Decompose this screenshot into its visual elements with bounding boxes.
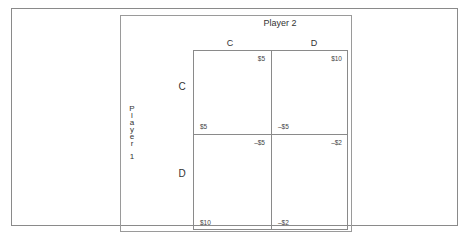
player1-strategy-c-label: C bbox=[176, 81, 188, 92]
cell-cd: $10 –$5 bbox=[272, 51, 348, 134]
player2-strategy-d-label: D bbox=[304, 38, 324, 48]
cell-dd: –$2 –$2 bbox=[272, 135, 348, 230]
player1-label-char: r bbox=[127, 140, 137, 147]
player1-strategy-d-label: D bbox=[176, 168, 188, 179]
player1-label-char: 1 bbox=[127, 153, 137, 160]
player2-label: Player 2 bbox=[250, 18, 310, 28]
cell-cc: $5 $5 bbox=[194, 51, 271, 134]
cell-dd-player2-payoff: –$2 bbox=[331, 139, 342, 146]
player2-strategy-c-label: C bbox=[220, 38, 240, 48]
cell-dc-player1-payoff: $10 bbox=[200, 219, 211, 226]
cell-dc-player2-payoff: –$5 bbox=[254, 139, 265, 146]
cell-cc-player2-payoff: $5 bbox=[258, 55, 265, 62]
cell-cd-player2-payoff: $10 bbox=[331, 55, 342, 62]
cell-cc-player1-payoff: $5 bbox=[200, 123, 207, 130]
cell-dc: –$5 $10 bbox=[194, 135, 271, 230]
payoff-grid: $5 $5 $10 –$5 –$5 $10 –$2 –$2 bbox=[193, 50, 348, 230]
cell-cd-player1-payoff: –$5 bbox=[278, 123, 289, 130]
player1-label: P l a y e r 1 bbox=[127, 105, 137, 160]
cell-dd-player1-payoff: –$2 bbox=[278, 219, 289, 226]
